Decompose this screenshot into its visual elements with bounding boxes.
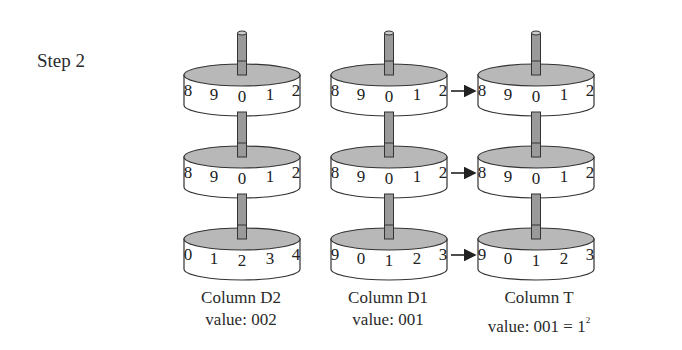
column-d1-value: value: 001 (303, 309, 473, 331)
wheel: 89012 (478, 61, 595, 116)
wheel-digit: 9 (478, 245, 487, 264)
wheel-digit: 1 (532, 251, 541, 270)
wheel-digit: 8 (331, 163, 340, 182)
wheel-digit: 9 (504, 167, 513, 186)
wheel-digit: 3 (266, 249, 275, 268)
wheel-digit: 2 (560, 249, 569, 268)
wheel-digit: 2 (413, 249, 422, 268)
column-d2-title: Column D2 (156, 287, 326, 309)
wheel-digit: 3 (586, 245, 595, 264)
wheel-digit: 8 (478, 163, 487, 182)
column-d2-value: value: 002 (156, 309, 326, 331)
wheel-digit: 0 (238, 87, 247, 106)
wheel-digit: 0 (238, 169, 247, 188)
wheel-digit: 1 (413, 85, 422, 104)
caption-column-d2: Column D2 value: 002 (156, 287, 326, 331)
wheel-digit: 2 (439, 81, 448, 100)
column-d2: 890128901201234 (184, 31, 301, 280)
column-t-value: value: 001 = 12 (454, 309, 624, 338)
wheel: 89012 (184, 61, 301, 116)
wheel-digit: 9 (331, 245, 340, 264)
wheel-digit: 2 (292, 81, 301, 100)
column-d1-title: Column D1 (303, 287, 473, 309)
wheel-digit: 1 (413, 167, 422, 186)
wheel: 01234 (184, 194, 301, 280)
wheel-digit: 2 (586, 163, 595, 182)
wheel-digit: 0 (504, 249, 513, 268)
wheel-digit: 4 (292, 245, 301, 264)
caption-column-t: Column T value: 001 = 12 (454, 287, 624, 338)
wheel-digit: 0 (532, 87, 541, 106)
wheel: 89012 (478, 112, 595, 198)
wheel-digit: 2 (238, 251, 247, 270)
wheel-digit: 1 (266, 167, 275, 186)
column-t: 890128901290123 (478, 31, 595, 280)
wheel-digit: 8 (184, 163, 193, 182)
wheel-digit: 3 (439, 245, 448, 264)
wheel-digit: 9 (210, 167, 219, 186)
wheel-digit: 9 (357, 167, 366, 186)
column-t-title: Column T (454, 287, 624, 309)
wheel: 89012 (184, 112, 301, 198)
wheel-digit: 9 (210, 85, 219, 104)
wheel: 90123 (331, 194, 448, 280)
wheel-digit: 2 (586, 81, 595, 100)
wheel-digit: 1 (266, 85, 275, 104)
caption-column-d1: Column D1 value: 001 (303, 287, 473, 331)
wheel-digit: 0 (357, 249, 366, 268)
wheel: 90123 (478, 194, 595, 280)
wheel-digit: 0 (385, 169, 394, 188)
wheel-digit: 0 (184, 245, 193, 264)
wheel-digit: 9 (504, 85, 513, 104)
wheel-digit: 2 (439, 163, 448, 182)
wheel-digit: 8 (184, 81, 193, 100)
wheel: 89012 (331, 112, 448, 198)
column-t-exponent: 2 (586, 315, 591, 325)
wheel-digit: 9 (357, 85, 366, 104)
wheel-digit: 1 (560, 85, 569, 104)
wheel-digit: 0 (532, 169, 541, 188)
column-d1: 890128901290123 (331, 31, 448, 280)
wheel-digit: 1 (560, 167, 569, 186)
wheel-digit: 8 (331, 81, 340, 100)
wheel: 89012 (331, 61, 448, 116)
wheel-digit: 2 (292, 163, 301, 182)
wheel-digit: 8 (478, 81, 487, 100)
wheel-digit: 1 (210, 249, 219, 268)
column-t-value-text: value: 001 = 1 (488, 317, 586, 336)
wheel-digit: 1 (385, 251, 394, 270)
difference-engine-diagram: Step 2 890128901201234890128901290123890… (0, 0, 682, 350)
wheel-digit: 0 (385, 87, 394, 106)
